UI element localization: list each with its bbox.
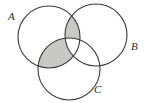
venn-diagram-canvas: [0, 0, 147, 103]
set-label-c: C: [94, 84, 101, 95]
set-label-b: B: [131, 41, 138, 52]
set-label-a: A: [8, 11, 15, 22]
venn-diagram-figure: A B C: [0, 0, 147, 103]
